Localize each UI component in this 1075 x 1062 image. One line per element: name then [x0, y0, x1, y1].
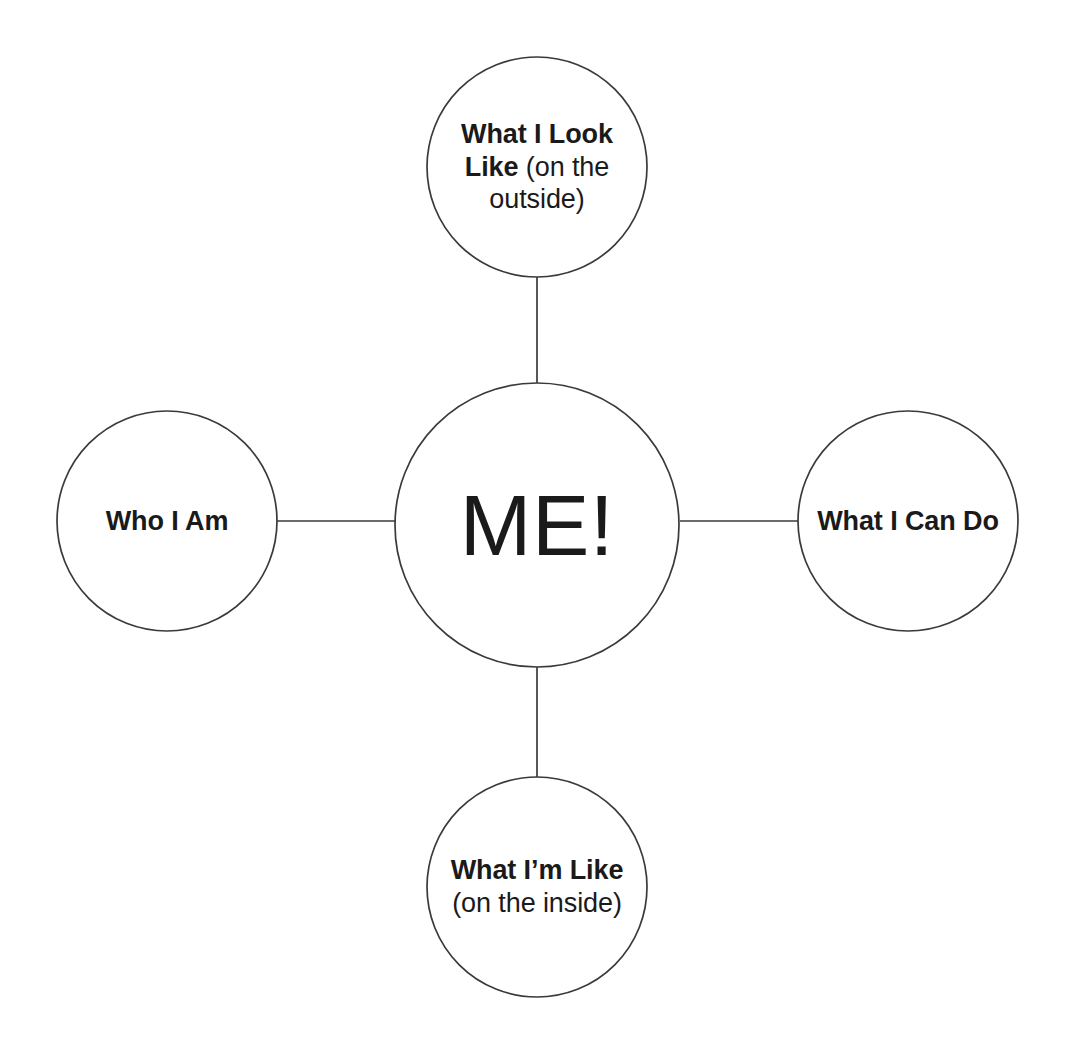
node-circle-left[interactable] [57, 411, 277, 631]
node-circle-center[interactable] [395, 383, 679, 667]
node-circle-group [57, 57, 1018, 997]
diagram-canvas: ME! What I Look Like (on the outside) Wh… [0, 0, 1075, 1062]
mind-map-graphic [0, 0, 1075, 1062]
node-circle-bottom[interactable] [427, 777, 647, 997]
node-circle-right[interactable] [798, 411, 1018, 631]
node-circle-top[interactable] [427, 57, 647, 277]
